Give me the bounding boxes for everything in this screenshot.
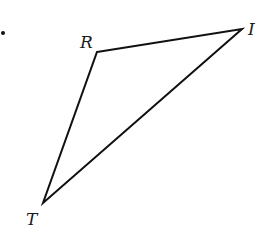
- bullet-dot: [1, 31, 5, 35]
- triangle-diagram: R I T: [0, 0, 266, 238]
- vertex-label-t: T: [26, 209, 39, 229]
- vertex-label-i: I: [247, 19, 255, 39]
- triangle-rit: [43, 29, 242, 203]
- vertex-label-r: R: [79, 32, 93, 52]
